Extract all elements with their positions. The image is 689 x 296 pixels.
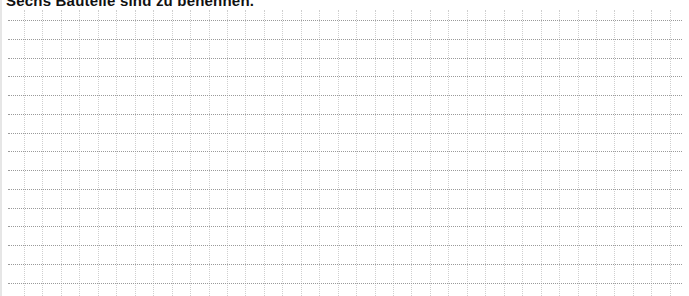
- grid-horizontal-line: [8, 283, 682, 284]
- grid-vertical-line: [578, 10, 579, 296]
- grid-vertical-line: [98, 10, 99, 296]
- grid-horizontal-line: [8, 226, 682, 227]
- grid-horizontal-line: [8, 20, 682, 21]
- grid-vertical-line: [559, 10, 560, 296]
- grid-horizontal-line: [8, 133, 682, 134]
- grid-vertical-line: [42, 10, 43, 296]
- grid-vertical-line: [633, 10, 634, 296]
- grid-vertical-line: [411, 10, 412, 296]
- grid-vertical-line: [301, 10, 302, 296]
- grid-vertical-line: [393, 10, 394, 296]
- grid-vertical-line: [522, 10, 523, 296]
- grid-horizontal-line: [8, 170, 682, 171]
- grid-vertical-line: [375, 10, 376, 296]
- grid-vertical-line: [24, 10, 25, 296]
- grid-vertical-line: [79, 10, 80, 296]
- grid-horizontal-line: [8, 114, 682, 115]
- grid-horizontal-line: [8, 76, 682, 77]
- grid-horizontal-line: [8, 189, 682, 190]
- writing-grid[interactable]: [0, 0, 689, 296]
- grid-vertical-line: [282, 10, 283, 296]
- grid-vertical-line: [541, 10, 542, 296]
- grid-vertical-line: [61, 10, 62, 296]
- grid-vertical-line: [153, 10, 154, 296]
- grid-vertical-line: [245, 10, 246, 296]
- grid-horizontal-line: [8, 95, 682, 96]
- grid-vertical-line: [430, 10, 431, 296]
- worksheet-page: Sechs Bauteile sind zu benennen.: [0, 0, 689, 296]
- grid-vertical-line: [209, 10, 210, 296]
- grid-vertical-line: [467, 10, 468, 296]
- grid-vertical-line: [264, 10, 265, 296]
- grid-vertical-line: [504, 10, 505, 296]
- grid-vertical-line: [227, 10, 228, 296]
- grid-vertical-line: [356, 10, 357, 296]
- grid-vertical-line: [190, 10, 191, 296]
- grid-vertical-line: [485, 10, 486, 296]
- grid-vertical-line: [651, 10, 652, 296]
- grid-vertical-line: [448, 10, 449, 296]
- grid-vertical-line: [338, 10, 339, 296]
- grid-horizontal-line: [8, 58, 682, 59]
- grid-horizontal-line: [8, 39, 682, 40]
- grid-vertical-line: [135, 10, 136, 296]
- grid-vertical-line: [596, 10, 597, 296]
- grid-vertical-line: [172, 10, 173, 296]
- grid-horizontal-line: [8, 264, 682, 265]
- grid-vertical-line: [116, 10, 117, 296]
- grid-horizontal-line: [8, 151, 682, 152]
- grid-vertical-line: [319, 10, 320, 296]
- grid-vertical-line: [614, 10, 615, 296]
- grid-horizontal-line: [8, 245, 682, 246]
- grid-vertical-line: [670, 10, 671, 296]
- grid-horizontal-line: [8, 208, 682, 209]
